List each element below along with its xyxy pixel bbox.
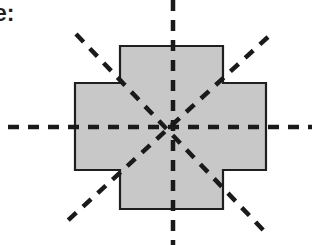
symmetry-diagram [0,0,312,245]
